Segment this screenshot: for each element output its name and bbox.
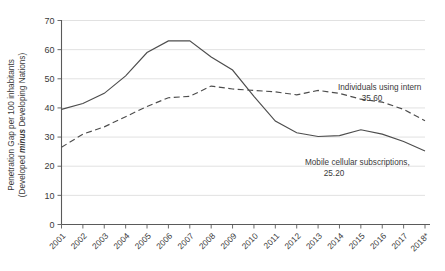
y-tick-label: 70 — [44, 16, 54, 26]
x-tick-label: 2012 — [282, 231, 302, 251]
y-tick-label: 40 — [44, 103, 54, 113]
y-axis-title-line2: (Developed minus Developing Nations) — [18, 53, 27, 198]
x-tick-label: 2006 — [154, 231, 174, 251]
x-tick-label: 2003 — [90, 231, 110, 251]
x-tick-label: 2007 — [175, 231, 195, 251]
x-tick-label: 2009 — [218, 231, 238, 251]
y-tick-labels: 010203040506070 — [44, 16, 54, 230]
x-tick-label: 2016 — [368, 231, 388, 251]
penetration-gap-chart: Penetration Gap per 100 inhabitants (Dev… — [0, 0, 445, 271]
annotation-value-mobile: 25.20 — [324, 169, 345, 178]
y-axis-title-line2-suffix: Developing Nations) — [18, 53, 27, 129]
annotation-value-internet: 35.60 — [362, 94, 383, 103]
annotation-label-internet: Individuals using intern — [338, 83, 422, 92]
x-tick-marks — [62, 225, 426, 229]
x-tick-label: 2004 — [111, 231, 131, 251]
y-tick-label: 0 — [49, 220, 54, 230]
x-tick-label: 2001 — [47, 231, 67, 251]
annotation-individuals-internet: Individuals using intern 35.60 — [338, 83, 422, 103]
y-tick-label: 20 — [44, 161, 54, 171]
y-axis-title-line1: Penetration Gap per 100 inhabitants — [7, 59, 16, 191]
y-axis-title-line2-prefix: (Developed — [18, 153, 27, 197]
x-tick-label: 2002 — [69, 231, 89, 251]
y-tick-label: 30 — [44, 132, 54, 142]
annotation-label-mobile: Mobile cellular subscriptions, — [305, 158, 410, 167]
y-tick-marks — [58, 21, 62, 225]
x-tick-label: 2013 — [304, 231, 324, 251]
x-tick-label: 2008 — [197, 231, 217, 251]
chart-canvas: Penetration Gap per 100 inhabitants (Dev… — [0, 0, 445, 271]
x-tick-label: 2018* — [408, 230, 431, 253]
x-tick-label: 2011 — [261, 231, 281, 251]
x-tick-label: 2014 — [325, 231, 345, 251]
x-tick-label: 2005 — [133, 231, 153, 251]
gridlines — [62, 21, 426, 196]
y-tick-label: 60 — [44, 45, 54, 55]
annotation-mobile-cellular: Mobile cellular subscriptions, 25.20 — [305, 158, 410, 178]
y-axis-title: Penetration Gap per 100 inhabitants (Dev… — [7, 53, 27, 198]
y-tick-label: 10 — [44, 191, 54, 201]
x-tick-labels: 2001200220032004200520062007200820092010… — [47, 230, 431, 253]
y-tick-label: 50 — [44, 74, 54, 84]
x-tick-label: 2017 — [389, 231, 409, 251]
x-tick-label: 2010 — [240, 231, 260, 251]
y-axis-title-line2-em: minus — [18, 128, 27, 153]
x-tick-label: 2015 — [347, 231, 367, 251]
